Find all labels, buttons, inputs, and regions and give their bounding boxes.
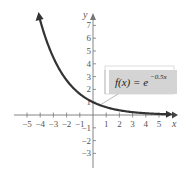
- x-tick-label: −2: [62, 119, 72, 129]
- y-tick-label: −1: [81, 123, 91, 133]
- y-tick-label: 3: [87, 72, 92, 82]
- y-tick-label: 7: [87, 20, 92, 30]
- x-tick-label: −5: [22, 119, 32, 129]
- function-callout: f(x) = e−0.5x: [101, 66, 177, 105]
- function-curve: [36, 12, 173, 118]
- x-axis-label: x: [171, 118, 177, 129]
- y-axis-label: y: [82, 9, 88, 20]
- curve-arrow-right-icon: [166, 111, 173, 118]
- y-tick-label: 2: [87, 84, 92, 94]
- y-tick-label: 6: [87, 33, 92, 43]
- function-label-exponent: −0.5x: [150, 73, 167, 81]
- callout-leader-line: [101, 94, 118, 105]
- function-label: f(x) = e: [115, 76, 148, 89]
- y-tick-label: 4: [87, 59, 92, 69]
- y-axis-arrow-icon: [90, 13, 96, 20]
- y-tick-label: −3: [81, 148, 91, 158]
- x-tick-label: −4: [35, 119, 45, 129]
- exponential-decay-chart: xy −5−4−3−2−112345−3−2−11234567 f(x) = e…: [0, 0, 189, 178]
- x-tick-label: 5: [157, 119, 162, 129]
- x-tick-label: 4: [144, 119, 149, 129]
- x-tick-label: 2: [117, 119, 122, 129]
- y-tick-label: 5: [87, 46, 92, 56]
- x-tick-label: 3: [130, 119, 135, 129]
- x-tick-label: 1: [104, 119, 109, 129]
- curve-arrow-up-icon: [36, 12, 44, 21]
- x-tick-label: −3: [49, 119, 59, 129]
- y-tick-label: −2: [81, 136, 91, 146]
